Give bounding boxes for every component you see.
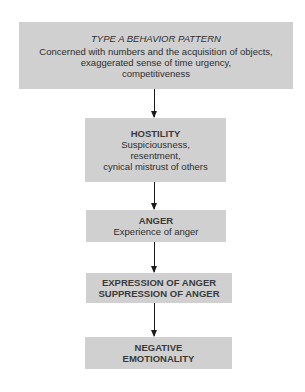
arrow-expression-to-negative bbox=[154, 303, 155, 336]
type-a-box: TYPE A BEHAVIOR PATTERN Concerned with n… bbox=[19, 22, 293, 89]
hostility-box: HOSTILITY Suspiciousness, resentment, cy… bbox=[85, 118, 226, 182]
anger-title: ANGER bbox=[139, 215, 173, 226]
anger-box: ANGER Experience of anger bbox=[86, 210, 226, 242]
arrow-anger-to-expression bbox=[154, 242, 155, 272]
expression-title: EXPRESSION OF ANGER bbox=[102, 277, 216, 288]
type-a-line-2: exaggerated sense of time urgency, bbox=[81, 57, 231, 68]
hostility-title: HOSTILITY bbox=[131, 128, 181, 139]
type-a-line-1: Concerned with numbers and the acquisiti… bbox=[39, 46, 272, 57]
suppression-title: SUPPRESSION OF ANGER bbox=[98, 288, 219, 299]
emotionality-title: EMOTIONALITY bbox=[123, 353, 195, 364]
type-a-title: TYPE A BEHAVIOR PATTERN bbox=[91, 33, 221, 44]
type-a-line-3: competitiveness bbox=[122, 68, 190, 79]
arrow-hostility-to-anger bbox=[154, 182, 155, 209]
expression-box: EXPRESSION OF ANGER SUPPRESSION OF ANGER bbox=[86, 273, 232, 303]
hostility-line-3: cynical mistrust of others bbox=[103, 161, 208, 172]
negative-box: NEGATIVE EMOTIONALITY bbox=[85, 337, 232, 369]
arrow-typea-to-hostility bbox=[154, 89, 155, 117]
anger-line-1: Experience of anger bbox=[113, 226, 198, 237]
hostility-line-1: Suspiciousness, bbox=[121, 139, 190, 150]
hostility-line-2: resentment, bbox=[130, 150, 180, 161]
negative-title: NEGATIVE bbox=[135, 342, 183, 353]
